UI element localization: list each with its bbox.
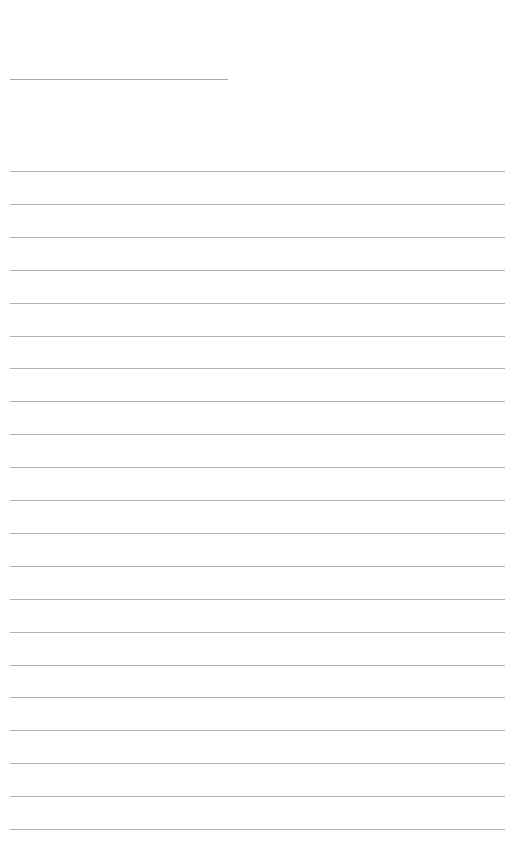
- ruled-line: [10, 401, 505, 402]
- ruled-line: [10, 730, 505, 731]
- title-line: [10, 79, 228, 80]
- ruled-line: [10, 204, 505, 205]
- ruled-line: [10, 467, 505, 468]
- ruled-line: [10, 566, 505, 567]
- ruled-line: [10, 829, 505, 830]
- ruled-line: [10, 368, 505, 369]
- ruled-line: [10, 270, 505, 271]
- ruled-line: [10, 796, 505, 797]
- ruled-line: [10, 336, 505, 337]
- ruled-line: [10, 599, 505, 600]
- ruled-line: [10, 500, 505, 501]
- lined-paper-page: [0, 0, 529, 863]
- ruled-line: [10, 303, 505, 304]
- ruled-line: [10, 171, 505, 172]
- ruled-line: [10, 533, 505, 534]
- ruled-line: [10, 632, 505, 633]
- ruled-line: [10, 434, 505, 435]
- ruled-line: [10, 763, 505, 764]
- ruled-line: [10, 665, 505, 666]
- ruled-line: [10, 237, 505, 238]
- ruled-line: [10, 697, 505, 698]
